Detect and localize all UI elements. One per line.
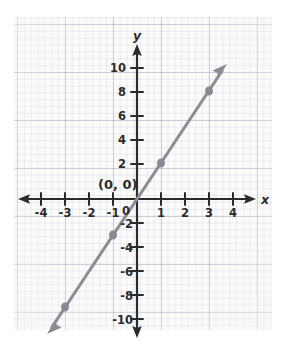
y-tick-label-2: 2 bbox=[118, 157, 126, 171]
plot-svg: -4 -3 -2 -1 1 2 3 4 10 8 6 4 2 -2 -4 -6 … bbox=[0, 0, 286, 347]
data-point-1-3 bbox=[157, 158, 165, 167]
data-line-arrow-upper-right-icon bbox=[213, 64, 228, 79]
data-point--3--9 bbox=[61, 302, 69, 311]
x-tick-label-4: 4 bbox=[229, 206, 237, 220]
data-line-arrow-lower-left-icon bbox=[47, 320, 62, 335]
x-tick-label--2: -2 bbox=[83, 206, 96, 220]
y-tick-label-8: 8 bbox=[118, 85, 126, 99]
y-tick-label--8: -8 bbox=[120, 289, 133, 303]
origin-point-annotation: (0, 0) bbox=[98, 177, 137, 192]
y-tick-label--10: -10 bbox=[112, 313, 133, 327]
y-tick-label-6: 6 bbox=[118, 109, 126, 123]
data-point--1--3 bbox=[109, 230, 117, 239]
y-tick-label-4: 4 bbox=[118, 133, 126, 147]
x-tick-label-3: 3 bbox=[205, 206, 213, 220]
y-tick-label--6: -6 bbox=[120, 265, 133, 279]
y-axis-label: y bbox=[133, 28, 142, 43]
x-tick-label-2: 2 bbox=[181, 206, 189, 220]
y-tick-label--2: -2 bbox=[120, 217, 133, 231]
x-tick-label--1: -1 bbox=[107, 206, 120, 220]
coordinate-graph-figure: -4 -3 -2 -1 1 2 3 4 10 8 6 4 2 -2 -4 -6 … bbox=[0, 0, 286, 347]
x-tick-label-1: 1 bbox=[157, 206, 165, 220]
data-point-3-9 bbox=[205, 86, 213, 95]
y-tick-label--4: -4 bbox=[120, 241, 133, 255]
x-tick-label--3: -3 bbox=[59, 206, 72, 220]
y-tick-label-10: 10 bbox=[110, 61, 126, 75]
x-axis-label: x bbox=[260, 192, 270, 207]
x-tick-label--4: -4 bbox=[35, 206, 48, 220]
origin-zero-label: 0 bbox=[122, 204, 130, 218]
